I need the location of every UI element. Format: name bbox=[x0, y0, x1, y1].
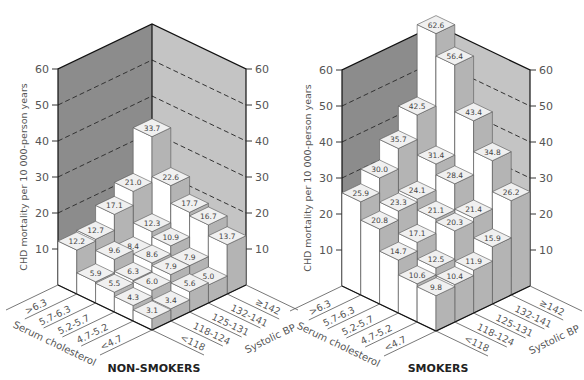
bar-value-label: 4.3 bbox=[127, 293, 139, 302]
y-tick-label-left: 40 bbox=[35, 135, 49, 148]
bar-value-label: 21.4 bbox=[465, 205, 482, 214]
bar-value-label: 10.9 bbox=[162, 233, 179, 242]
bar-value-label: 43.4 bbox=[465, 108, 482, 117]
y-tick-label-right: 20 bbox=[255, 207, 269, 220]
panel-title: SMOKERS bbox=[408, 362, 469, 375]
bar: 9.8 bbox=[417, 278, 455, 331]
bar-value-label: 21.1 bbox=[428, 206, 445, 215]
bar-value-label: 10.6 bbox=[409, 271, 426, 280]
y-tick-label-left: 10 bbox=[35, 243, 49, 256]
bar-value-label: 12.3 bbox=[144, 219, 161, 228]
bar-value-label: 25.9 bbox=[352, 189, 369, 198]
y-tick-label-left: 50 bbox=[319, 100, 333, 113]
bar-value-label: 6.0 bbox=[146, 277, 158, 286]
y-tick-label-left: 50 bbox=[35, 99, 49, 112]
bar-value-label: 22.6 bbox=[162, 173, 179, 182]
bar-value-label: 33.7 bbox=[144, 124, 161, 133]
bar-value-label: 28.4 bbox=[446, 171, 463, 180]
y-tick-label-left: 60 bbox=[319, 64, 333, 77]
bar-value-label: 15.9 bbox=[484, 234, 501, 243]
y-tick-label-left: 40 bbox=[319, 136, 333, 149]
y-tick-label-right: 40 bbox=[255, 135, 269, 148]
bar-value-label: 34.8 bbox=[484, 148, 501, 157]
bar-value-label: 5.0 bbox=[202, 272, 214, 281]
bar-value-label: 12.7 bbox=[87, 226, 104, 235]
bar-value-label: 31.4 bbox=[428, 151, 445, 160]
y-tick-label-left: 20 bbox=[319, 208, 333, 221]
bar-value-label: 12.2 bbox=[68, 237, 85, 246]
y-tick-label-right: 30 bbox=[539, 172, 553, 185]
y-tick-label-right: 60 bbox=[255, 63, 269, 76]
y-tick-label-right: 50 bbox=[539, 100, 553, 113]
bar-value-label: 5.9 bbox=[90, 269, 102, 278]
y-tick-label-right: 10 bbox=[539, 244, 553, 257]
bar-value-label: 12.5 bbox=[428, 255, 445, 264]
bar-value-label: 9.8 bbox=[430, 283, 442, 292]
bar-value-label: 26.2 bbox=[503, 188, 520, 197]
bar-value-label: 20.8 bbox=[371, 216, 388, 225]
bar-value-label: 7.9 bbox=[184, 253, 196, 262]
y-tick-label-right: 10 bbox=[255, 243, 269, 256]
bar-value-label: 23.3 bbox=[390, 198, 407, 207]
y-axis-title: CHD mortality per 10 000-person years bbox=[302, 84, 313, 272]
bar-value-label: 10.4 bbox=[446, 272, 463, 281]
y-tick-label-right: 50 bbox=[255, 99, 269, 112]
bar-value-label: 3.4 bbox=[165, 296, 177, 305]
y-tick-label-left: 30 bbox=[35, 171, 49, 184]
y-tick-label-left: 30 bbox=[319, 172, 333, 185]
bar-value-label: 13.7 bbox=[219, 232, 236, 241]
bar-value-label: 17.1 bbox=[106, 201, 123, 210]
y-axis-title: CHD mortality per 10 000-person years bbox=[18, 83, 29, 271]
bar-value-label: 8.6 bbox=[146, 250, 158, 259]
y-tick-label-right: 30 bbox=[255, 171, 269, 184]
bar-value-label: 35.7 bbox=[390, 135, 407, 144]
bar-value-label: 3.1 bbox=[146, 306, 158, 315]
y-tick-label-left: 20 bbox=[35, 207, 49, 220]
bar-value-label: 17.7 bbox=[181, 199, 198, 208]
y-tick-label-right: 40 bbox=[539, 136, 553, 149]
bar-value-label: 14.7 bbox=[390, 247, 407, 256]
bar-value-label: 5.5 bbox=[108, 279, 120, 288]
bar-value-label: 24.1 bbox=[409, 186, 426, 195]
panel-title: NON-SMOKERS bbox=[108, 362, 201, 375]
chd-mortality-3d-bar-charts: 101020203030404050506060CHD mortality pe… bbox=[0, 0, 584, 380]
bar-value-label: 11.9 bbox=[465, 257, 482, 266]
y-tick-label-left: 10 bbox=[319, 244, 333, 257]
bar-value-label: 17.1 bbox=[409, 229, 426, 238]
bar-value-label: 16.7 bbox=[200, 212, 217, 221]
smokers-panel: 101020203030404050506060CHD mortality pe… bbox=[290, 16, 582, 375]
bar-value-label: 30.0 bbox=[371, 165, 388, 174]
non-smokers-panel: 101020203030404050506060CHD mortality pe… bbox=[6, 24, 298, 375]
y-tick-label-left: 60 bbox=[35, 63, 49, 76]
z-axis-title: Systolic BP bbox=[527, 323, 581, 357]
y-tick-label-right: 20 bbox=[539, 208, 553, 221]
z-axis-title: Systolic BP bbox=[243, 322, 297, 356]
bar-value-label: 56.4 bbox=[446, 52, 463, 61]
y-tick-label-right: 60 bbox=[539, 64, 553, 77]
bar-value-label: 42.5 bbox=[409, 102, 426, 111]
bar-value-label: 21.0 bbox=[125, 178, 142, 187]
bar-value-label: 5.6 bbox=[184, 279, 196, 288]
bar-value-label: 20.3 bbox=[446, 218, 463, 227]
bar-value-label: 6.3 bbox=[127, 267, 139, 276]
bar-value-label: 62.6 bbox=[428, 21, 445, 30]
bar-value-label: 7.9 bbox=[165, 262, 177, 271]
bar-value-label: 9.6 bbox=[108, 246, 120, 255]
